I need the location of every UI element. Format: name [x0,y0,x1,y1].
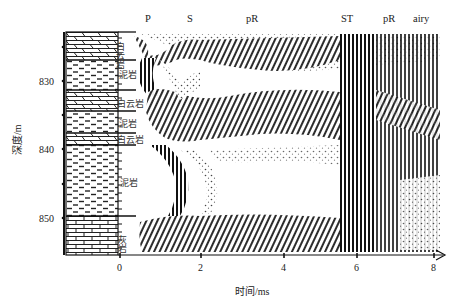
x-tick-2: 2 [198,262,203,273]
wave-label-p: P [145,13,151,24]
layer-dolomite-2 [66,90,118,111]
x-tick-8: 8 [431,262,436,273]
wave-labels: P S pR ST pR airy [145,13,430,24]
y-tick-840: 840 [39,144,54,155]
litho-label-1: 白云岩 [115,41,125,70]
wave-label-st: ST [341,13,354,24]
waveform-display [134,34,440,252]
x-tick-4: 4 [281,262,286,273]
x-axis-label: 时间/ms [235,285,270,297]
litho-label-2: 泥岩 [119,69,137,80]
litho-label-3: 白云岩 [117,98,144,109]
x-tick-0: 0 [117,262,122,273]
layer-mudstone-3 [66,145,118,216]
litho-label-5: 白云岩 [117,134,144,145]
layer-limestone [66,216,118,255]
layer-mudstone-1 [66,60,118,90]
y-tick-830: 830 [39,76,54,87]
wave-label-airy: airy [413,13,430,24]
wave-label-pr: pR [246,13,258,24]
y-axis: 830 840 850 深度/m [11,46,64,224]
waveform-figure: 白云岩 泥岩 白云岩 泥岩 白云岩 泥岩 灰岩 P S pR ST [0,0,459,300]
layer-dolomite-1 [66,32,118,60]
litho-label-4: 泥岩 [119,118,137,129]
litho-label-7: 灰岩 [117,234,127,254]
x-axis: 0 2 4 6 8 时间/ms [117,250,445,297]
litho-label-6: 泥岩 [120,177,138,188]
wave-label-s: S [187,13,193,24]
wave-label-pr2: pR [383,13,395,24]
layer-dolomite-3 [66,133,118,145]
x-tick-6: 6 [354,262,359,273]
layer-mudstone-2 [66,111,118,133]
y-tick-850: 850 [39,213,54,224]
y-axis-label: 深度/m [11,124,23,155]
